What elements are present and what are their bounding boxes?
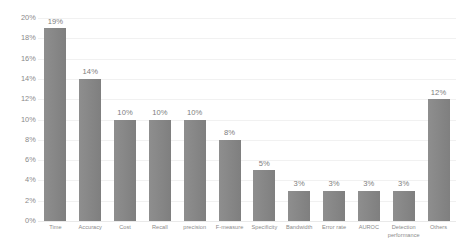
bar-group: 10%	[142, 18, 177, 221]
bar-group: 5%	[247, 18, 282, 221]
x-axis: TimeAccuracyCostRecallprecisionF-measure…	[38, 224, 456, 250]
plot-area: 19%14%10%10%10%8%5%3%3%3%3%12%	[38, 18, 456, 221]
bar-group: 10%	[177, 18, 212, 221]
x-axis-tick-label: Specificity	[247, 224, 282, 250]
axis-baseline	[38, 221, 456, 222]
x-axis-tick-label: Bandwidth	[282, 224, 317, 250]
bar-value-label: 3%	[328, 180, 339, 188]
x-axis-tick-label: Time	[38, 224, 73, 250]
y-axis-tick-label: 10%	[8, 116, 36, 123]
bar	[428, 99, 450, 221]
y-axis-tick-label: 12%	[8, 95, 36, 102]
bar-value-label: 19%	[48, 18, 64, 26]
bar-group: 3%	[282, 18, 317, 221]
bar-value-label: 12%	[431, 89, 447, 97]
y-axis-tick-label: 18%	[8, 35, 36, 42]
bar-value-label: 10%	[187, 109, 203, 117]
y-axis-tick-label: 2%	[8, 197, 36, 204]
bar-value-label: 3%	[363, 180, 374, 188]
bar	[253, 170, 275, 221]
x-axis-tick-label: F-measure	[212, 224, 247, 250]
y-axis-tick-label: 6%	[8, 156, 36, 163]
bar-group: 8%	[212, 18, 247, 221]
y-axis: 20%18%16%14%12%10%8%6%4%2%0%	[8, 18, 36, 221]
y-axis-tick-label: 14%	[8, 75, 36, 82]
x-axis-tick-label: Recall	[142, 224, 177, 250]
y-axis-tick-label: 16%	[8, 55, 36, 62]
bar	[184, 120, 206, 222]
y-axis-tick-label: 0%	[8, 217, 36, 224]
x-axis-tick-label: Others	[421, 224, 456, 250]
bar-group: 19%	[38, 18, 73, 221]
y-axis-tick-label: 4%	[8, 177, 36, 184]
bar-group: 12%	[421, 18, 456, 221]
bar	[44, 28, 66, 221]
x-axis-tick-label: Error rate	[317, 224, 352, 250]
x-axis-tick-label: Detection performance	[386, 224, 421, 250]
bar	[79, 79, 101, 221]
bar-value-label: 14%	[82, 68, 98, 76]
y-axis-tick-label: 20%	[8, 14, 36, 21]
bar	[323, 191, 345, 221]
bar	[219, 140, 241, 221]
bar-group: 3%	[386, 18, 421, 221]
x-axis-tick-label: Cost	[108, 224, 143, 250]
bar-value-label: 3%	[294, 180, 305, 188]
bar	[288, 191, 310, 221]
bar-value-label: 3%	[398, 180, 409, 188]
x-axis-tick-label: Accuracy	[73, 224, 108, 250]
bar-value-label: 10%	[117, 109, 133, 117]
bar	[149, 120, 171, 222]
bar-group: 3%	[351, 18, 386, 221]
bar-value-label: 5%	[259, 160, 270, 168]
bar-value-label: 8%	[224, 129, 235, 137]
bar	[358, 191, 380, 221]
bar	[393, 191, 415, 221]
bar-chart: 20%18%16%14%12%10%8%6%4%2%0% 19%14%10%10…	[0, 0, 465, 252]
bar-series: 19%14%10%10%10%8%5%3%3%3%3%12%	[38, 18, 456, 221]
x-axis-tick-label: precision	[177, 224, 212, 250]
x-axis-tick-label: AUROC	[351, 224, 386, 250]
bar-group: 3%	[317, 18, 352, 221]
bar-value-label: 10%	[152, 109, 168, 117]
bar-group: 14%	[73, 18, 108, 221]
y-axis-tick-label: 8%	[8, 136, 36, 143]
bar	[114, 120, 136, 222]
bar-group: 10%	[108, 18, 143, 221]
